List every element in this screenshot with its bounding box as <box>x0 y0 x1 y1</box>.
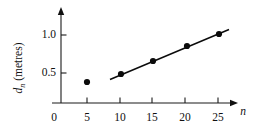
y-axis-label-subscript: n <box>18 84 27 88</box>
y-axis-label-units: (metres) <box>12 42 25 80</box>
x-tick-label-20: 20 <box>179 111 191 123</box>
y-tick-label-0.5: 0.5 <box>42 66 57 78</box>
x-tick-label-15: 15 <box>146 111 158 123</box>
trend-line <box>110 30 229 80</box>
svg-text:dn(metres): dn(metres) <box>12 42 27 93</box>
x-axis-label: n <box>240 105 246 117</box>
data-point-n5 <box>84 79 90 85</box>
x-axis-arrow-icon <box>230 100 238 106</box>
data-point-n15 <box>150 58 156 64</box>
x-tick-label-0: 0 <box>51 111 57 123</box>
y-axis-arrow-icon <box>58 7 64 15</box>
x-tick-label-10: 10 <box>114 111 126 123</box>
x-tick-label-25: 25 <box>212 111 224 123</box>
data-point-n25 <box>216 31 222 37</box>
y-tick-label-1.0: 1.0 <box>42 28 57 40</box>
x-tick-label-5: 5 <box>84 111 90 123</box>
data-point-n20 <box>184 43 190 49</box>
y-axis-label: dn(metres) <box>12 42 27 93</box>
scatter-chart: 0 5 10 15 20 25 1.0 0.5 n dn(metres) <box>0 0 255 133</box>
data-point-n10 <box>118 71 124 77</box>
chart-screenshot: 0 5 10 15 20 25 1.0 0.5 n dn(metres) <box>0 0 255 133</box>
